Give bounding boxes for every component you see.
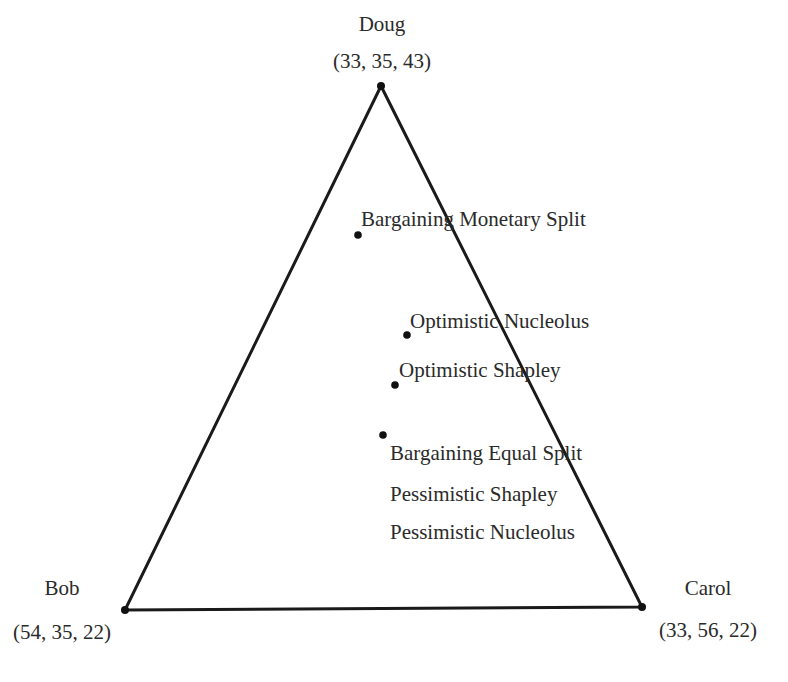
vertex-label-carol: Carol	[685, 578, 732, 599]
vertex-label-bob: Bob	[44, 578, 79, 599]
point-dot-bargaining-monetary-split	[354, 231, 362, 239]
vertex-coords-doug: (33, 35, 43)	[333, 51, 431, 72]
point-label-pessimistic-shapley: Pessimistic Shapley	[390, 484, 557, 505]
point-label-bargaining-equal-split: Bargaining Equal Split	[390, 443, 582, 464]
simplex-diagram	[0, 0, 788, 682]
vertex-coords-bob: (54, 35, 22)	[13, 622, 111, 643]
vertex-dot-carol	[638, 603, 646, 611]
vertex-dot-doug	[377, 82, 385, 90]
point-label-optimistic-nucleolus: Optimistic Nucleolus	[410, 311, 589, 332]
vertex-dot-bob	[121, 606, 129, 614]
vertex-label-doug: Doug	[359, 14, 406, 35]
point-label-optimistic-shapley: Optimistic Shapley	[399, 360, 561, 381]
point-dot-optimistic-shapley	[391, 381, 399, 389]
point-label-bargaining-monetary-split: Bargaining Monetary Split	[361, 209, 586, 230]
vertex-coords-carol: (33, 56, 22)	[659, 620, 757, 641]
point-dot-bargaining-equal-split	[379, 431, 387, 439]
point-label-pessimistic-nucleolus: Pessimistic Nucleolus	[390, 522, 575, 543]
